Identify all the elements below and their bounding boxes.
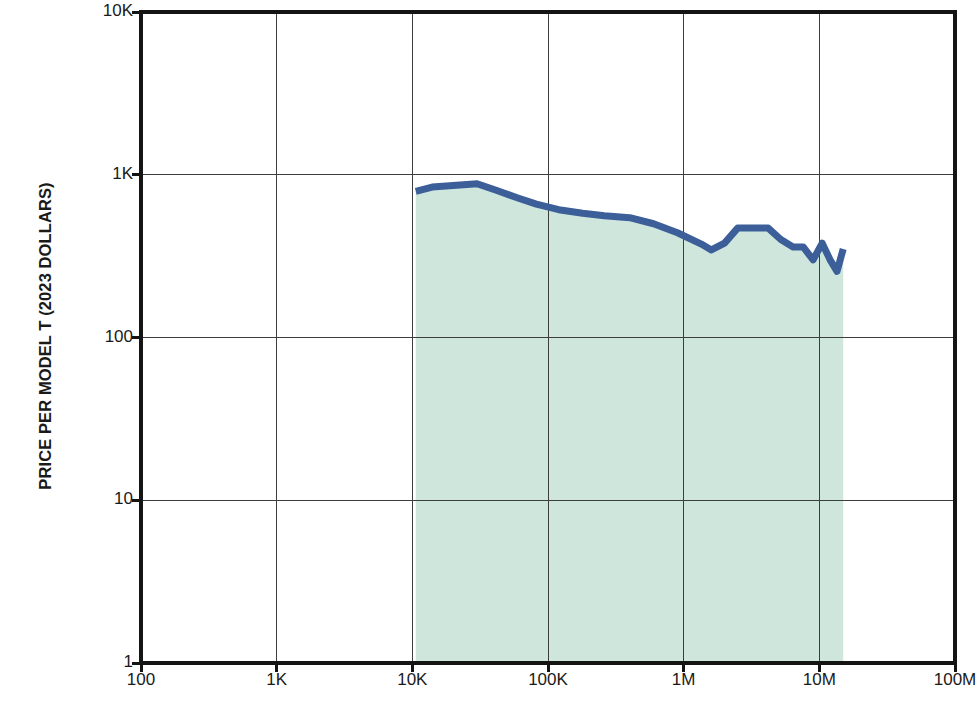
- series-area-fill: [416, 184, 843, 663]
